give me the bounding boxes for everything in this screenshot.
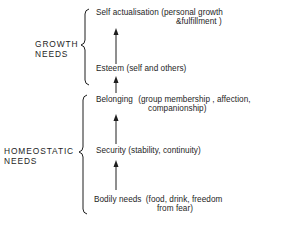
level-detail: (personal growth — [161, 8, 223, 17]
level-name: Esteem — [96, 64, 124, 73]
level-detail: (group membership , affection, — [138, 95, 250, 104]
level-name: Self actualisation — [96, 8, 159, 17]
group-label-growth: GROWTH NEEDS — [35, 39, 79, 59]
level-esteem: Esteem (self and others) — [96, 64, 186, 74]
arrow-up-icon — [114, 28, 119, 64]
diagram-connectors — [0, 0, 281, 225]
arrow-up-icon — [114, 160, 119, 190]
level-name: Bodily needs — [94, 195, 141, 204]
level-detail-continued: companionship) — [148, 104, 207, 114]
level-detail: (self and others) — [126, 64, 186, 73]
group-label-homeostatic: HOMEOSTATIC NEEDS — [4, 146, 74, 166]
homeostatic-brace — [79, 95, 87, 214]
level-detail: (stability, continuity) — [128, 146, 200, 155]
level-name: Security — [96, 146, 126, 155]
level-detail-continued: &fulfillment ) — [176, 17, 222, 27]
level-detail-continued: from fear) — [157, 204, 193, 214]
arrow-up-icon — [114, 76, 119, 93]
level-security: Security (stability, continuity) — [96, 146, 201, 156]
growth-brace — [81, 9, 89, 85]
level-name: Belonging — [96, 95, 133, 104]
arrow-up-icon — [114, 114, 119, 144]
level-detail: (food, drink, freedom — [146, 195, 223, 204]
